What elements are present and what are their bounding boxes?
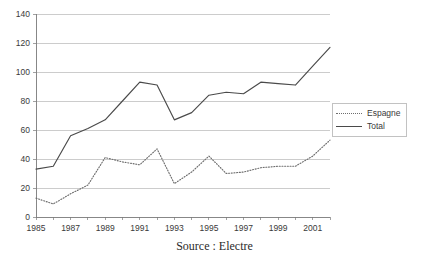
x-tick-label: 1985: [27, 223, 46, 233]
y-axis-tick-labels: 020406080100120140: [16, 9, 30, 222]
y-tick-label: 60: [21, 125, 31, 135]
legend-label-total: Total: [367, 121, 385, 132]
x-tick-label: 1987: [61, 223, 80, 233]
x-tick-label: 1991: [130, 223, 149, 233]
legend-swatch-espagne: [336, 113, 362, 114]
legend-item-total: Total: [336, 120, 401, 133]
y-tick-label: 0: [25, 212, 30, 222]
y-tick-label: 120: [16, 38, 30, 48]
data-series: [36, 47, 330, 204]
x-tick-label: 1999: [269, 223, 288, 233]
x-tick-label: 1993: [165, 223, 184, 233]
legend-label-espagne: Espagne: [367, 108, 401, 119]
y-tick-label: 40: [21, 154, 31, 164]
x-axis-tick-labels: 198519871989199119931995199719992001: [27, 223, 323, 233]
axis-lines: [36, 14, 330, 217]
series-line-espagne: [36, 140, 330, 204]
y-tick-label: 100: [16, 67, 30, 77]
x-tick-label: 1995: [199, 223, 218, 233]
chart-legend: Espagne Total: [332, 103, 407, 137]
x-tick-label: 1997: [234, 223, 253, 233]
legend-swatch-total: [336, 126, 362, 127]
y-tick-label: 140: [16, 9, 30, 19]
y-tick-label: 80: [21, 96, 31, 106]
series-line-total: [36, 47, 330, 169]
x-tick-label: 1989: [96, 223, 115, 233]
legend-item-espagne: Espagne: [336, 107, 401, 120]
x-tick-label: 2001: [303, 223, 322, 233]
gridlines: [36, 14, 330, 188]
y-tick-label: 20: [21, 183, 31, 193]
line-chart-figure: 020406080100120140 198519871989199119931…: [0, 0, 429, 265]
source-caption: Source : Electre: [0, 239, 429, 254]
